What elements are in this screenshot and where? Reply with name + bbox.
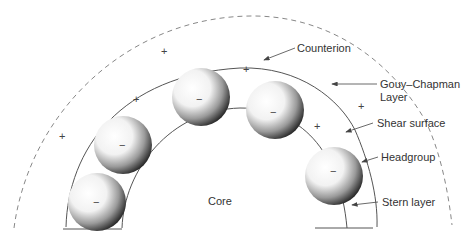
counterion-6: +	[314, 120, 320, 132]
label-headgroup: Headgroup	[381, 151, 435, 163]
headgroup-4: −	[246, 81, 304, 139]
svg-text:−: −	[330, 165, 336, 177]
label-counterion: Counterion	[297, 42, 351, 54]
micelle-diagram: − − − − − + + + + + + Counterion Gouy–Ch…	[0, 0, 469, 244]
svg-text:−: −	[119, 139, 125, 151]
label-stern-layer: Stern layer	[382, 196, 436, 208]
arrow-headgroup	[362, 157, 378, 162]
counterion-1: +	[161, 45, 167, 57]
counterion-4: +	[243, 63, 249, 75]
counterion-2: +	[133, 93, 139, 105]
headgroup-5: −	[305, 147, 363, 205]
headgroup-1: −	[68, 173, 126, 231]
label-core: Core	[208, 195, 232, 207]
svg-text:−: −	[270, 106, 276, 118]
arrow-shear-surface	[346, 123, 373, 132]
arrow-stern-layer	[352, 202, 378, 205]
label-shear-surface: Shear surface	[377, 117, 445, 129]
counterion-5: +	[358, 100, 364, 112]
headgroup-3: −	[172, 68, 230, 126]
arrow-counterion	[264, 48, 295, 60]
svg-text:−: −	[196, 93, 202, 105]
label-gouy-chapman: Gouy–Chapman	[380, 78, 460, 90]
headgroup-2: −	[94, 116, 152, 174]
label-gouy-chapman-layer: Layer	[380, 91, 408, 103]
counterion-3: +	[59, 130, 65, 142]
svg-text:−: −	[93, 196, 99, 208]
